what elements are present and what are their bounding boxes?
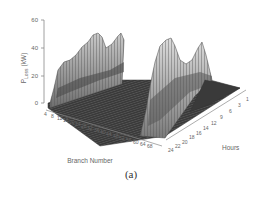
svg-text:PLoss(kW): PLoss(kW): [20, 53, 29, 84]
svg-text:64: 64: [140, 141, 146, 147]
svg-text:48: 48: [113, 133, 119, 139]
y-axis-label: Hours: [222, 144, 240, 151]
svg-text:6: 6: [229, 108, 232, 114]
z-tick-20: 20: [31, 73, 38, 79]
svg-text:40: 40: [100, 129, 106, 135]
z-tick-40: 40: [31, 45, 38, 51]
svg-text:12: 12: [211, 120, 217, 126]
svg-text:22: 22: [175, 143, 181, 149]
svg-text:20: 20: [69, 119, 75, 125]
svg-text:56: 56: [126, 137, 132, 143]
svg-text:14: 14: [203, 125, 209, 131]
svg-text:68: 68: [147, 143, 153, 149]
z-tick-0: 0: [35, 100, 39, 106]
svg-text:24: 24: [75, 121, 81, 127]
x-axis-label: Branch Number: [67, 157, 113, 164]
svg-text:60: 60: [133, 139, 139, 145]
svg-text:28: 28: [81, 123, 87, 129]
svg-text:32: 32: [87, 125, 93, 131]
svg-text:18: 18: [189, 134, 195, 140]
svg-text:1: 1: [246, 96, 249, 102]
svg-text:16: 16: [196, 130, 202, 136]
svg-text:4: 4: [44, 111, 47, 117]
svg-text:44: 44: [106, 131, 112, 137]
svg-text:52: 52: [119, 135, 125, 141]
svg-text:24: 24: [168, 147, 174, 153]
svg-text:36: 36: [94, 127, 100, 133]
svg-text:12: 12: [57, 115, 63, 121]
svg-text:9: 9: [220, 114, 223, 120]
z-tick-60: 60: [31, 17, 38, 23]
svg-text:16: 16: [63, 117, 69, 123]
z-axis-label: PLoss(kW): [20, 53, 29, 84]
svg-text:20: 20: [182, 139, 188, 145]
figure-caption: (a): [0, 168, 262, 180]
svg-text:3: 3: [238, 102, 241, 108]
z-axis: 60 40 20 0 PLoss(kW): [20, 17, 44, 106]
svg-text:8: 8: [51, 113, 54, 119]
